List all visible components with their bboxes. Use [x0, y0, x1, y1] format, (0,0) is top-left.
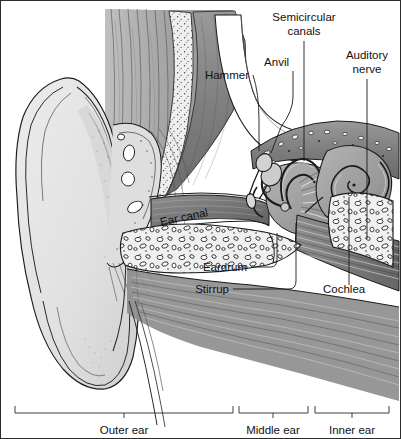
label-eardrum: Eardrum — [203, 261, 247, 273]
label-semicircular-canals-line1: Semicircular — [272, 11, 335, 23]
ear-anatomy-figure: Hammer Anvil Semicircular canals Auditor… — [0, 0, 401, 439]
label-cochlea: Cochlea — [323, 283, 366, 295]
region-label-middle-ear: Middle ear — [246, 424, 300, 436]
label-auditory-nerve-line2: nerve — [353, 63, 382, 75]
label-anvil: Anvil — [264, 56, 289, 68]
ear-diagram-svg: Hammer Anvil Semicircular canals Auditor… — [1, 1, 401, 439]
label-semicircular-canals-line2: canals — [287, 25, 320, 37]
label-stirrup: Stirrup — [195, 283, 229, 295]
region-label-outer-ear: Outer ear — [100, 424, 149, 436]
label-auditory-nerve-line1: Auditory — [346, 49, 388, 61]
region-label-inner-ear: Inner ear — [329, 424, 375, 436]
label-hammer: Hammer — [205, 69, 249, 81]
